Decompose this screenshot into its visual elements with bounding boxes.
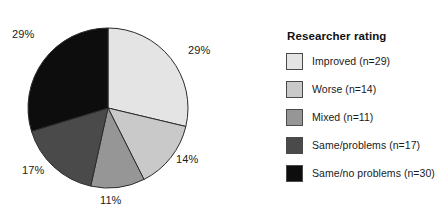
slice-percent-same-no-problems: 29% [12,28,34,40]
pie-chart-figure: 29% 14% 11% 17% 29% Researcher rating Im… [0,0,441,220]
legend-item-label: Mixed (n=11) [312,111,373,123]
pie-svg [0,0,232,220]
legend-item: Same/no problems (n=30) [286,164,441,182]
slice-percent-worse: 14% [176,153,198,165]
legend-items: Improved (n=29)Worse (n=14)Mixed (n=11)S… [286,52,441,182]
legend-swatch [286,53,303,70]
legend-item: Same/problems (n=17) [286,136,441,154]
legend-item-label: Worse (n=14) [312,83,376,95]
legend-item-label: Improved (n=29) [312,55,390,67]
legend-item: Mixed (n=11) [286,108,441,126]
legend-title: Researcher rating [287,30,441,42]
legend-swatch [286,81,303,98]
slice-percent-improved: 29% [188,44,210,56]
pie-plot-area: 29% 14% 11% 17% 29% [0,0,232,220]
legend-item: Worse (n=14) [286,80,441,98]
legend-item-label: Same/no problems (n=30) [312,167,435,179]
legend: Researcher rating Improved (n=29)Worse (… [286,30,441,182]
legend-item: Improved (n=29) [286,52,441,70]
legend-swatch [286,109,303,126]
slice-percent-mixed: 11% [100,194,122,206]
legend-item-label: Same/problems (n=17) [312,139,420,151]
pie-slices [28,28,188,188]
legend-swatch [286,137,303,154]
slice-percent-same-problems: 17% [22,164,44,176]
legend-swatch [286,165,303,182]
